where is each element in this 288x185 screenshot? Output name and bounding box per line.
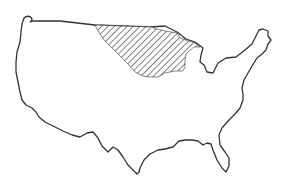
us-map xyxy=(0,0,288,185)
